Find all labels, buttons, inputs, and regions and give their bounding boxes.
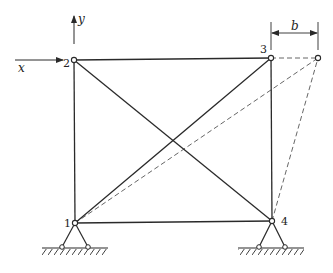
pin-icon [60, 245, 65, 250]
node-label-2: 2 [63, 57, 70, 70]
member-1-4 [75, 221, 272, 223]
support-node-1 [42, 223, 108, 255]
pin-icon [86, 245, 91, 250]
joint-1 [72, 220, 77, 225]
node-label-4: 4 [281, 215, 288, 228]
displaced-members [75, 58, 318, 223]
member-1-2 [74, 60, 75, 223]
joint-3 [268, 55, 273, 60]
support-node-4 [238, 221, 304, 255]
node-label-3: 3 [260, 43, 267, 56]
member-2-3 [74, 58, 271, 60]
member-3-4 [271, 58, 272, 221]
truss-diagram: y x b [0, 0, 333, 273]
y-axis-label: y [77, 12, 85, 26]
displaced-member-4-3prime [272, 58, 318, 221]
truss-members [74, 58, 272, 223]
pin-icon [283, 245, 288, 250]
node-label-1: 1 [64, 217, 71, 230]
joint-3-displaced [315, 55, 320, 60]
member-1-3 [75, 58, 271, 223]
joint-2 [71, 57, 76, 62]
ground-hatch-left [42, 249, 108, 255]
x-axis-label: x [18, 61, 25, 75]
displaced-member-1-3prime [75, 58, 318, 223]
dimension-label-b: b [291, 19, 299, 33]
pin-icon [257, 245, 262, 250]
ground-hatch-right [238, 249, 304, 255]
joint-4 [269, 218, 274, 223]
